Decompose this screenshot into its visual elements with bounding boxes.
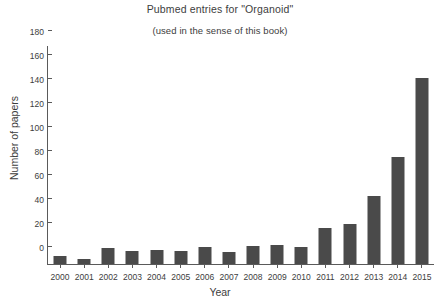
x-tick-mark bbox=[60, 264, 61, 268]
x-tick-mark bbox=[253, 264, 254, 268]
bar bbox=[343, 224, 356, 264]
bar bbox=[295, 247, 308, 264]
x-tick-mark bbox=[180, 264, 181, 268]
y-tick: 80 bbox=[35, 141, 48, 159]
bar bbox=[222, 252, 235, 264]
y-tick: 100 bbox=[30, 117, 48, 135]
x-tick-mark bbox=[228, 264, 229, 268]
bar bbox=[415, 78, 428, 264]
y-tick-label: 120 bbox=[30, 99, 48, 109]
y-axis-title: Number of papers bbox=[8, 68, 20, 208]
bar bbox=[271, 245, 284, 264]
x-tick-mark bbox=[108, 264, 109, 268]
bar bbox=[198, 247, 211, 264]
y-tick-label: 100 bbox=[30, 123, 48, 133]
bar bbox=[150, 250, 163, 264]
bar bbox=[367, 196, 380, 264]
y-tick-mark bbox=[48, 30, 52, 31]
bar bbox=[126, 251, 139, 264]
x-tick-mark bbox=[84, 264, 85, 268]
bar-slot bbox=[145, 48, 169, 264]
y-tick: 120 bbox=[30, 93, 48, 111]
chart-title: Pubmed entries for "Organoid" bbox=[0, 3, 440, 15]
x-tick-mark bbox=[373, 264, 374, 268]
y-tick-label: 180 bbox=[30, 27, 48, 37]
y-tick: 0 bbox=[39, 237, 48, 255]
y-tick: 60 bbox=[35, 165, 48, 183]
x-tick-mark bbox=[349, 264, 350, 268]
bar-slot bbox=[289, 48, 313, 264]
x-tick-mark bbox=[204, 264, 205, 268]
x-tick-mark bbox=[132, 264, 133, 268]
bar-slot bbox=[338, 48, 362, 264]
bar-slot bbox=[96, 48, 120, 264]
chart-figure: Pubmed entries for "Organoid" (used in t… bbox=[0, 0, 440, 305]
bar-slot bbox=[265, 48, 289, 264]
y-tick: 140 bbox=[30, 69, 48, 87]
y-tick-label: 0 bbox=[39, 243, 48, 253]
x-tick-mark bbox=[421, 264, 422, 268]
y-tick-label: 80 bbox=[35, 147, 48, 157]
bar-slot bbox=[313, 48, 337, 264]
bar-slot bbox=[48, 48, 72, 264]
x-tick-label: 2015 bbox=[405, 272, 439, 282]
y-tick: 180 bbox=[30, 21, 48, 39]
y-tick: 40 bbox=[35, 189, 48, 207]
y-tick-label: 20 bbox=[35, 219, 48, 229]
bar-series bbox=[48, 48, 434, 264]
bar-slot bbox=[386, 48, 410, 264]
x-tick-mark bbox=[156, 264, 157, 268]
plot-area: 020406080100120140160180 bbox=[48, 48, 434, 264]
bar bbox=[319, 228, 332, 264]
bar-slot bbox=[241, 48, 265, 264]
x-tick-mark bbox=[325, 264, 326, 268]
bar bbox=[174, 251, 187, 264]
chart-subtitle: (used in the sense of this book) bbox=[0, 25, 440, 36]
x-tick-mark bbox=[301, 264, 302, 268]
y-tick-label: 40 bbox=[35, 195, 48, 205]
bar bbox=[247, 246, 260, 264]
y-tick-label: 60 bbox=[35, 171, 48, 181]
bar-slot bbox=[217, 48, 241, 264]
x-axis-line bbox=[47, 264, 434, 265]
x-tick-mark bbox=[277, 264, 278, 268]
bar-slot bbox=[410, 48, 434, 264]
x-axis-title: Year bbox=[0, 286, 440, 298]
bar bbox=[391, 157, 404, 264]
bar-slot bbox=[72, 48, 96, 264]
x-tick-mark bbox=[397, 264, 398, 268]
y-tick-label: 140 bbox=[30, 75, 48, 85]
bar-slot bbox=[193, 48, 217, 264]
bar bbox=[102, 248, 115, 264]
y-tick: 160 bbox=[30, 45, 48, 63]
bar-slot bbox=[120, 48, 144, 264]
bar bbox=[54, 256, 67, 264]
bar-slot bbox=[169, 48, 193, 264]
y-tick: 20 bbox=[35, 213, 48, 231]
bar-slot bbox=[362, 48, 386, 264]
y-tick-label: 160 bbox=[30, 51, 48, 61]
